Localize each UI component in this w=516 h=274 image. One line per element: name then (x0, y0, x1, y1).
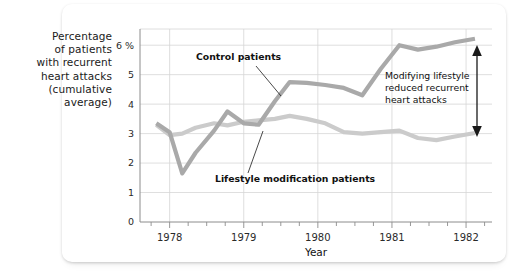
x-tick-label-1978: 1978 (157, 232, 182, 243)
series-line-lifestyle-modification-patients (156, 116, 475, 140)
y-tick-label-5: 5 (128, 69, 134, 80)
y-tick-label-6: 6 % (116, 40, 134, 51)
x-minor-ticks (151, 222, 484, 228)
gap-annotation-text: Modifying lifestyle reduced recurrent he… (385, 70, 470, 105)
gap-annotation-line-2: reduced recurrent (385, 82, 469, 93)
control-patients-leader-line (256, 66, 281, 96)
x-tick-labels: 19781979198019811982 (157, 232, 479, 243)
x-tick-label-1981: 1981 (379, 232, 404, 243)
x-tick-label-1982: 1982 (453, 232, 478, 243)
plot-wrapper: 0123456 % 19781979198019811982 Control p… (0, 0, 516, 274)
control-patients-callout-label: Control patients (196, 51, 282, 62)
y-tick-label-0: 0 (128, 216, 134, 227)
gap-double-arrow-icon (472, 45, 482, 137)
x-tick-label-1980: 1980 (305, 232, 330, 243)
line-chart: 0123456 % 19781979198019811982 Control p… (0, 0, 516, 274)
lifestyle-patients-callout-label: Lifestyle modification patients (215, 173, 376, 184)
y-tick-label-1: 1 (128, 187, 134, 198)
chart-page: Percentage of patients with recurrent he… (0, 0, 516, 274)
lifestyle-patients-leader-line (248, 131, 263, 173)
y-tick-label-2: 2 (128, 157, 134, 168)
x-axis-title: Year (304, 246, 328, 258)
gridlines (140, 29, 492, 222)
gap-annotation-line-1: Modifying lifestyle (385, 70, 470, 81)
y-tick-label-4: 4 (128, 99, 134, 110)
y-tick-label-3: 3 (128, 128, 134, 139)
gap-annotation-line-3: heart attacks (385, 94, 447, 105)
y-tick-labels: 0123456 % (116, 40, 134, 228)
x-tick-label-1979: 1979 (231, 232, 256, 243)
